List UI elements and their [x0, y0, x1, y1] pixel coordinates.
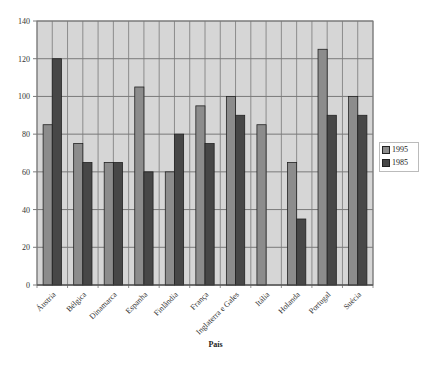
- bar-1985: [113, 162, 122, 285]
- y-tick-label: 60: [22, 168, 30, 177]
- y-tick-label: 100: [18, 92, 30, 101]
- x-tick-label: Bélgica: [65, 290, 89, 314]
- bar-1985: [144, 172, 153, 285]
- legend-label: 1995: [392, 145, 408, 154]
- legend-item-1985: 1985: [380, 156, 418, 169]
- y-tick-label: 20: [22, 243, 30, 252]
- bar-1985: [297, 219, 306, 285]
- bar-1985: [52, 59, 61, 285]
- bar-1995: [135, 87, 144, 285]
- y-tick-label: 120: [18, 55, 30, 64]
- y-tick-label: 80: [22, 130, 30, 139]
- bar-1985: [327, 115, 336, 285]
- legend-item-1995: 1995: [380, 143, 418, 156]
- bar-1995: [43, 125, 52, 285]
- bar-1995: [196, 106, 205, 285]
- bar-1995: [165, 172, 174, 285]
- y-tick-label: 40: [22, 206, 30, 215]
- y-tick-label: 0: [26, 281, 30, 290]
- bar-1985: [205, 144, 214, 285]
- x-tick-label: França: [189, 290, 211, 312]
- bar-1995: [104, 162, 113, 285]
- bar-1995: [349, 96, 358, 285]
- x-axis-labels: ÁustriaBélgicaDinamarcaEspanhaFinlândiaF…: [34, 289, 364, 337]
- x-tick-label: Holanda: [277, 290, 303, 316]
- x-tick-label: Espanha: [124, 290, 150, 316]
- bar-1995: [287, 162, 296, 285]
- bar-1995: [318, 49, 327, 285]
- x-tick-label: Portugal: [307, 290, 333, 316]
- bar-1995: [74, 144, 83, 285]
- legend: 1995 1985: [379, 142, 419, 172]
- x-tick-label: Áustria: [34, 289, 58, 313]
- x-tick-label: Finlândia: [152, 290, 180, 318]
- bar-1985: [174, 134, 183, 285]
- bar-chart: 020406080100120140 ÁustriaBélgicaDinamar…: [0, 0, 431, 367]
- legend-swatch-icon: [382, 146, 390, 154]
- bar-1995: [257, 125, 266, 285]
- y-axis-ticks: 020406080100120140: [18, 17, 30, 290]
- x-tick-label: Itália: [254, 290, 272, 308]
- bar-1985: [83, 162, 92, 285]
- bar-1985: [236, 115, 245, 285]
- bar-1985: [358, 115, 367, 285]
- y-tick-label: 140: [18, 17, 30, 26]
- legend-label: 1985: [392, 158, 408, 167]
- bar-1995: [226, 96, 235, 285]
- x-tick-label: Dinamarca: [88, 290, 119, 321]
- legend-swatch-icon: [382, 159, 390, 167]
- x-tick-label: Suécia: [342, 290, 364, 312]
- x-axis-title: País: [0, 340, 431, 349]
